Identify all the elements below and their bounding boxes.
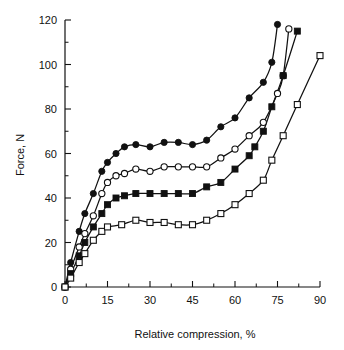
marker-filled-square — [99, 211, 105, 217]
marker-filled-circle — [175, 139, 181, 145]
curve-series-3-filled-square — [65, 31, 297, 287]
marker-filled-square — [190, 191, 196, 197]
y-tick-label: 60 — [45, 148, 57, 160]
marker-filled-circle — [99, 168, 105, 174]
x-tick-label: 15 — [101, 294, 113, 306]
marker-filled-circle — [204, 137, 210, 143]
curve-series-2-open-circle — [65, 29, 289, 287]
marker-open-circle — [246, 133, 252, 139]
force-compression-plot: 0153045607590020406080100120 Relative co… — [0, 0, 344, 350]
marker-filled-square — [133, 191, 139, 197]
marker-open-square — [119, 222, 125, 228]
y-tick-label: 100 — [39, 59, 57, 71]
x-tick-label: 60 — [229, 294, 241, 306]
x-tick-label: 45 — [186, 294, 198, 306]
marker-filled-square — [280, 73, 286, 79]
marker-filled-square — [105, 202, 111, 208]
marker-filled-circle — [232, 115, 238, 121]
marker-open-square — [90, 237, 96, 243]
x-tick-label: 0 — [62, 294, 68, 306]
marker-filled-circle — [113, 150, 119, 156]
marker-open-circle — [175, 164, 181, 170]
marker-filled-square — [122, 193, 128, 199]
marker-filled-square — [269, 104, 275, 110]
marker-filled-circle — [90, 190, 96, 196]
y-axis-title: Force, N — [14, 134, 26, 176]
marker-filled-square — [76, 253, 82, 259]
marker-open-circle — [232, 146, 238, 152]
x-tick-label: 75 — [271, 294, 283, 306]
marker-open-square — [246, 191, 252, 197]
marker-open-circle — [90, 213, 96, 219]
marker-filled-square — [90, 224, 96, 230]
y-tick-label: 40 — [45, 192, 57, 204]
marker-filled-circle — [260, 79, 266, 85]
y-tick-label: 120 — [39, 14, 57, 26]
marker-open-square — [147, 219, 153, 225]
marker-filled-circle — [269, 59, 275, 65]
axes-group — [65, 20, 320, 287]
x-tick-label: 30 — [144, 294, 156, 306]
marker-filled-square — [232, 166, 238, 172]
marker-open-circle — [204, 164, 210, 170]
marker-filled-circle — [246, 95, 252, 101]
marker-filled-circle — [189, 142, 195, 148]
ticks-group — [65, 20, 320, 287]
marker-open-square — [269, 157, 275, 163]
marker-filled-circle — [161, 139, 167, 145]
marker-open-square — [133, 217, 139, 223]
marker-open-square — [280, 133, 286, 139]
x-axis-title: Relative compression, % — [134, 328, 255, 340]
marker-filled-circle — [104, 159, 110, 165]
marker-open-circle — [147, 168, 153, 174]
marker-open-circle — [189, 164, 195, 170]
marker-open-circle — [218, 155, 224, 161]
marker-open-circle — [99, 190, 105, 196]
marker-open-square — [175, 222, 181, 228]
marker-open-circle — [274, 90, 280, 96]
marker-open-circle — [104, 179, 110, 185]
marker-open-square — [232, 202, 238, 208]
marker-open-square — [204, 217, 210, 223]
y-tick-label: 80 — [45, 103, 57, 115]
marker-open-circle — [133, 166, 139, 172]
marker-open-square — [317, 53, 323, 59]
y-tick-label: 0 — [51, 281, 57, 293]
curve-series-1-filled-circle — [65, 24, 278, 287]
marker-open-square — [68, 275, 74, 281]
marker-filled-circle — [82, 210, 88, 216]
marker-filled-circle — [133, 142, 139, 148]
marker-filled-circle — [147, 144, 153, 150]
marker-filled-square — [218, 179, 224, 185]
marker-open-square — [190, 222, 196, 228]
marker-open-circle — [113, 173, 119, 179]
marker-filled-square — [260, 128, 266, 134]
marker-filled-square — [113, 195, 119, 201]
marker-filled-circle — [218, 124, 224, 130]
marker-filled-square — [204, 184, 210, 190]
marker-filled-square — [82, 240, 88, 246]
marker-filled-square — [252, 144, 258, 150]
marker-open-square — [294, 102, 300, 108]
marker-open-square — [76, 260, 82, 266]
curves-group — [65, 24, 320, 287]
marker-filled-square — [175, 191, 181, 197]
marker-open-circle — [286, 26, 292, 32]
marker-open-square — [161, 219, 167, 225]
marker-filled-square — [294, 28, 300, 34]
marker-open-square — [105, 224, 111, 230]
marker-filled-circle — [121, 144, 127, 150]
marker-filled-circle — [68, 259, 74, 265]
marker-open-square — [62, 284, 68, 290]
y-tick-label: 20 — [45, 237, 57, 249]
marker-open-circle — [82, 231, 88, 237]
marker-open-square — [260, 177, 266, 183]
marker-open-square — [82, 251, 88, 257]
marker-filled-square — [246, 153, 252, 159]
marker-open-circle — [260, 119, 266, 125]
marker-open-circle — [76, 244, 82, 250]
marker-open-square — [218, 211, 224, 217]
marker-filled-circle — [274, 21, 280, 27]
marker-open-square — [99, 228, 105, 234]
chart-figure: 0153045607590020406080100120 Relative co… — [0, 0, 344, 350]
